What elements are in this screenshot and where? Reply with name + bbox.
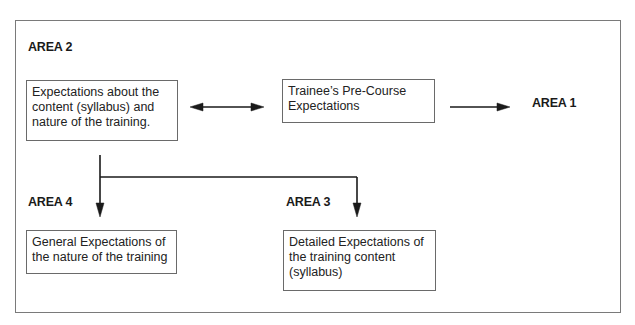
arrow-right-icon — [450, 103, 510, 111]
bidirectional-arrow-icon — [190, 103, 264, 111]
connectors — [0, 0, 635, 325]
branch-arrows-icon — [96, 155, 361, 217]
